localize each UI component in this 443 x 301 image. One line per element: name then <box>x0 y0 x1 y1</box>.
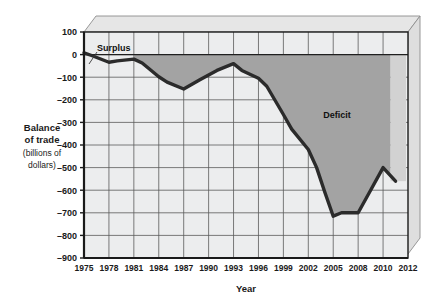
x-tick-label: 1978 <box>99 263 118 273</box>
y-axis-title-line1: Balance <box>24 122 60 133</box>
x-tick-label: 1993 <box>224 263 243 273</box>
y-axis-title: Balance of trade (billions of dollars) <box>23 122 62 170</box>
x-tick-label: 2012 <box>399 263 418 273</box>
x-tick-label: 2010 <box>374 263 393 273</box>
x-tick-label: 2002 <box>299 263 318 273</box>
x-tick-label: 1987 <box>174 263 193 273</box>
y-tick-label: –800 <box>57 231 77 241</box>
surplus-label: Surplus <box>97 43 131 53</box>
chart-svg-canvas: 1000–100–200–300–400–500–600–700–800–900… <box>0 0 443 301</box>
y-tick-label: 0 <box>72 50 77 60</box>
x-tick-label: 1990 <box>199 263 218 273</box>
y-axis-units-line1: (billions of <box>23 148 62 158</box>
balance-of-trade-chart: 1000–100–200–300–400–500–600–700–800–900… <box>0 0 443 301</box>
frame-top-bevel <box>84 16 420 32</box>
deficit-area-right-edge <box>391 55 406 182</box>
deficit-label: Deficit <box>323 110 351 120</box>
y-tick-label: –500 <box>57 163 77 173</box>
y-tick-label: –200 <box>57 95 77 105</box>
y-axis-units-line2: dollars) <box>28 160 56 170</box>
x-tick-label: 1984 <box>149 263 168 273</box>
x-axis-ticks: 1975197819811984198719901993199619992002… <box>75 263 418 273</box>
y-axis-ticks: 1000–100–200–300–400–500–600–700–800–900 <box>57 27 84 263</box>
x-tick-label: 2008 <box>349 263 368 273</box>
x-tick-label: 1975 <box>75 263 94 273</box>
x-tick-label: 1981 <box>124 263 143 273</box>
x-tick-label: 1999 <box>274 263 293 273</box>
y-tick-label: –100 <box>57 73 77 83</box>
y-axis-title-line2: of trade <box>25 134 60 145</box>
y-tick-label: –600 <box>57 186 77 196</box>
y-tick-label: 100 <box>62 27 77 37</box>
y-tick-label: –700 <box>57 208 77 218</box>
x-tick-label: 1996 <box>249 263 268 273</box>
x-axis-title: Year <box>236 283 256 294</box>
x-tick-label: 2005 <box>324 263 343 273</box>
